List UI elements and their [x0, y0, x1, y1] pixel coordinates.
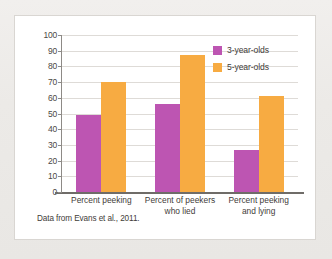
- y-axis-tick-label: 80: [31, 62, 57, 71]
- y-axis-tick-label: 70: [31, 78, 57, 87]
- y-axis-tick-mark: [58, 176, 62, 177]
- y-axis-tick-mark: [58, 66, 62, 67]
- y-axis-tick-label: 0: [31, 188, 57, 197]
- x-axis-label-line: Percent of peekers: [145, 195, 215, 205]
- legend: 3-year-olds 5-year-olds: [213, 43, 307, 77]
- figure-caption: Data from Evans et al., 2011.: [37, 214, 140, 223]
- legend-label-5-year-olds: 5-year-olds: [227, 62, 269, 72]
- y-axis-tick-mark: [58, 145, 62, 146]
- bar-3-year-olds-1: [155, 104, 180, 192]
- x-axis-category-label-2: Percent peekingand lying: [212, 195, 305, 217]
- y-axis-tick-mark: [58, 35, 62, 36]
- y-axis-tick-label: 10: [31, 172, 57, 181]
- y-axis-tick-label: 40: [31, 125, 57, 134]
- bar-5-year-olds-2: [259, 96, 284, 192]
- y-axis-tick-mark: [58, 161, 62, 162]
- y-axis-tick-label: 50: [31, 110, 57, 119]
- bar-5-year-olds-1: [180, 55, 205, 192]
- y-axis-tick-mark: [58, 192, 62, 193]
- bar-3-year-olds-2: [234, 150, 259, 192]
- legend-label-3-year-olds: 3-year-olds: [227, 45, 269, 55]
- x-axis-label-line: and lying: [242, 206, 276, 216]
- x-axis-label-line: Percent peeking: [228, 195, 289, 205]
- bar-5-year-olds-0: [101, 82, 126, 192]
- y-axis-tick-mark: [58, 129, 62, 130]
- y-axis-tick-mark: [58, 114, 62, 115]
- y-axis-tick-label: 30: [31, 141, 57, 150]
- y-axis-tick-labels: 1009080706050403020100: [27, 16, 57, 241]
- legend-swatch-icon-5-year-olds: [213, 63, 222, 72]
- legend-swatch-icon-3-year-olds: [213, 46, 222, 55]
- bar-chart: 1009080706050403020100 Percent peekingPe…: [15, 16, 317, 241]
- legend-item-3-year-olds: 3-year-olds: [213, 43, 307, 57]
- x-axis-line: [55, 192, 304, 194]
- x-axis-label-line: Percent peeking: [71, 195, 132, 205]
- y-axis-tick-label: 90: [31, 47, 57, 56]
- figure-root: 1009080706050403020100 Percent peekingPe…: [0, 0, 332, 259]
- y-axis-tick-label: 20: [31, 157, 57, 166]
- y-axis-tick-mark: [58, 82, 62, 83]
- y-axis-tick-label: 60: [31, 94, 57, 103]
- y-axis-tick-label: 100: [31, 31, 57, 40]
- x-axis-label-line: who lied: [165, 206, 196, 216]
- figure-card: 1009080706050403020100 Percent peekingPe…: [14, 15, 316, 240]
- bar-3-year-olds-0: [76, 115, 101, 192]
- y-axis-tick-mark: [58, 98, 62, 99]
- legend-item-5-year-olds: 5-year-olds: [213, 60, 307, 74]
- x-axis-category-labels: Percent peekingPercent of peekerswho lie…: [62, 195, 298, 229]
- y-axis-tick-mark: [58, 51, 62, 52]
